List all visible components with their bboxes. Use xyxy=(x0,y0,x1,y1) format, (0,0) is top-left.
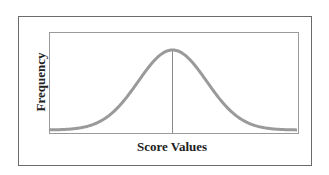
normal-curve xyxy=(50,50,297,130)
y-axis-label: Frequency xyxy=(33,53,49,112)
x-axis-label: Score Values xyxy=(137,139,207,155)
plot-area xyxy=(50,33,299,134)
